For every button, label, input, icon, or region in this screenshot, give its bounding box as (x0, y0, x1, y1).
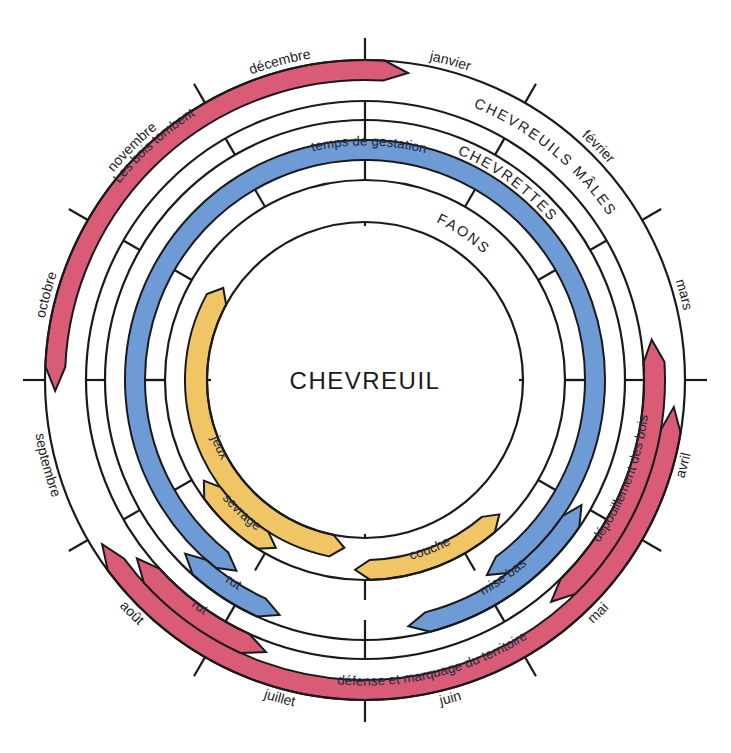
ring-divider (590, 241, 606, 251)
ring-divider (123, 241, 139, 251)
ring-divider (465, 189, 475, 206)
month-tick (194, 84, 205, 103)
band-male-0 (45, 60, 408, 391)
month-tick (525, 657, 536, 676)
month-label: janvier (428, 47, 474, 74)
ring-divider (174, 270, 191, 280)
ring-divider (174, 480, 191, 490)
month-tick (642, 209, 661, 220)
ring-divider (465, 553, 475, 570)
center-title: CHEVREUIL (290, 367, 441, 394)
ring-divider (226, 138, 236, 154)
roe-deer-annual-cycle-diagram: Les bois tombentdéfense et marquage du t… (0, 0, 731, 753)
month-tick (194, 657, 205, 676)
ring-divider (538, 270, 555, 280)
month-label: février (579, 126, 618, 165)
month-tick (525, 84, 536, 103)
ring-divider (538, 480, 555, 490)
month-label: septembre (32, 432, 64, 499)
ring-divider (123, 510, 139, 520)
ring-divider (495, 138, 505, 154)
ring-divider (255, 553, 265, 570)
ring-divider (495, 605, 505, 621)
ring-divider (255, 189, 265, 206)
month-tick (69, 209, 88, 220)
month-tick (642, 540, 661, 551)
ring-divider (226, 605, 236, 621)
month-tick (69, 540, 88, 551)
band-fawn-7 (185, 288, 344, 556)
ring-label-fawns: FAONS (435, 210, 494, 257)
